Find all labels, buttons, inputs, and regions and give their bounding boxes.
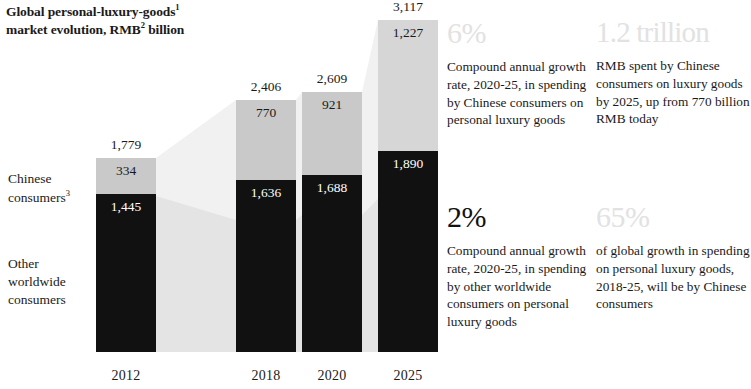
stat-block-cagr-other: 2% Compound annual growth rate, 2020-25,… bbox=[447, 202, 595, 331]
stat-block-rmb-spent: 1.2 trillion RMB spent by Chinese consum… bbox=[596, 18, 751, 128]
bar-2025: 3,117 1,227 1,890 2025 bbox=[378, 20, 438, 352]
segment-chinese-2020: 921 bbox=[302, 92, 362, 175]
stacked-bar-chart: 1,779 334 1,445 2012 2,406 770 1,636 201… bbox=[0, 0, 440, 389]
x-axis-label-2025: 2025 bbox=[362, 369, 454, 383]
segment-value-other-2025: 1,890 bbox=[378, 157, 438, 171]
segment-value-other-2012: 1,445 bbox=[96, 200, 156, 214]
bar-2018: 2,406 770 1,636 2018 bbox=[236, 100, 296, 352]
x-axis-label-2012: 2012 bbox=[80, 369, 172, 383]
stat-headline-2-percent: 2% bbox=[447, 202, 595, 232]
stat-block-global-growth-share: 65% of global growth in spending on pers… bbox=[596, 202, 751, 313]
stat-body-global-growth-share: of global growth in spending on personal… bbox=[596, 242, 751, 313]
segment-chinese-2025: 1,227 bbox=[378, 20, 438, 151]
bar-total-label-2012: 1,779 bbox=[82, 138, 170, 152]
stat-body-cagr-chinese: Compound annual growth rate, 2020-25, in… bbox=[447, 58, 595, 129]
segment-chinese-2018: 770 bbox=[236, 100, 296, 180]
stat-headline-1-2-trillion: 1.2 trillion bbox=[596, 18, 751, 47]
bar-total-label-2025: 3,117 bbox=[364, 0, 452, 14]
segment-value-chinese-2012: 334 bbox=[96, 164, 156, 178]
segment-value-other-2018: 1,636 bbox=[236, 186, 296, 200]
legend-label-chinese-consumers: Chinese consumers3 bbox=[8, 170, 92, 206]
segment-chinese-2012: 334 bbox=[96, 158, 156, 194]
segment-value-chinese-2020: 921 bbox=[302, 98, 362, 112]
stat-headline-6-percent: 6% bbox=[447, 18, 595, 48]
legend-footnote-marker-3: 3 bbox=[66, 188, 70, 198]
legend-chinese-text: Chinese consumers bbox=[8, 171, 66, 204]
segment-other-2020: 1,688 bbox=[302, 175, 362, 352]
segment-value-chinese-2018: 770 bbox=[236, 106, 296, 120]
segment-value-chinese-2025: 1,227 bbox=[378, 26, 438, 40]
legend-label-other-consumers: Other worldwide consumers bbox=[8, 255, 92, 309]
segment-other-2018: 1,636 bbox=[236, 180, 296, 352]
segment-other-2012: 1,445 bbox=[96, 194, 156, 352]
stat-body-rmb-spent: RMB spent by Chinese consumers on luxury… bbox=[596, 57, 751, 128]
stat-headline-65-percent: 65% bbox=[596, 202, 751, 232]
stat-body-cagr-other: Compound annual growth rate, 2020-25, in… bbox=[447, 242, 595, 331]
bar-2020: 2,609 921 1,688 2020 bbox=[302, 92, 362, 352]
segment-other-2025: 1,890 bbox=[378, 151, 438, 352]
bar-2012: 1,779 334 1,445 2012 bbox=[96, 158, 156, 352]
segment-value-other-2020: 1,688 bbox=[302, 181, 362, 195]
bar-total-label-2020: 2,609 bbox=[288, 72, 376, 86]
stat-block-cagr-chinese: 6% Compound annual growth rate, 2020-25,… bbox=[447, 18, 595, 129]
